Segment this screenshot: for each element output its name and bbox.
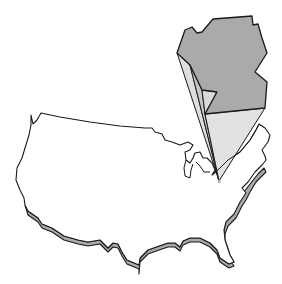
us-map-illustration	[0, 0, 282, 284]
state-tip	[218, 180, 221, 183]
state-top-face	[177, 16, 267, 114]
